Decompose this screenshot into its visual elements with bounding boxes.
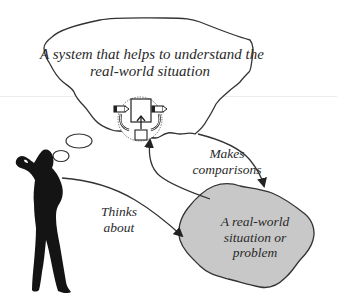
thinks-about-label: Thinks about: [84, 204, 154, 235]
real-world-blob-line3: problem: [200, 245, 310, 261]
makes-comparisons-line1: Makes: [182, 146, 272, 162]
real-world-blob-label: A real-world situation or problem: [200, 214, 310, 261]
real-world-blob-line1: A real-world: [200, 214, 310, 230]
makes-comparisons-line2: comparisons: [182, 162, 272, 178]
system-cloud-label-line2: real-world situation: [40, 63, 260, 80]
system-cloud-label: A system that helps to understand the re…: [40, 46, 260, 81]
thought-bubble-small: [53, 151, 69, 162]
thinks-about-line1: Thinks: [84, 204, 154, 220]
thought-bubble-large: [66, 134, 92, 148]
thinks-about-line2: about: [84, 220, 154, 236]
person-silhouette: [16, 150, 71, 294]
real-world-blob-line2: situation or: [200, 230, 310, 246]
system-cloud-label-line1: A system that helps to understand the: [40, 46, 260, 63]
makes-comparisons-label: Makes comparisons: [182, 146, 272, 177]
